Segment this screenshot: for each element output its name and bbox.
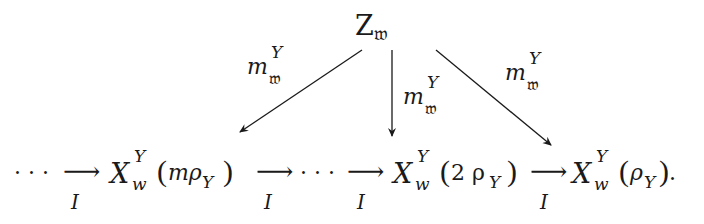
paren-open: ( xyxy=(157,154,167,188)
label-vertical-arrow: m Y 𝔴 xyxy=(403,84,424,109)
mid-dots: · · · xyxy=(300,160,335,185)
trailing-period: . xyxy=(669,160,676,185)
arrow-4: ⟶ xyxy=(530,156,567,186)
leading-dots: · · · xyxy=(14,160,49,185)
label-main: m xyxy=(505,60,526,85)
node-arg: 2 ρ xyxy=(451,160,485,185)
paren-close: ) xyxy=(659,154,669,188)
label-sup: Y xyxy=(427,72,438,92)
node-sup: Y xyxy=(417,146,428,166)
top-node-main: Z xyxy=(355,10,374,41)
paren-close: ) xyxy=(507,154,517,188)
node-x-2-rho: X Y w ( 2 ρ Y ) xyxy=(393,158,412,189)
node-arg: ρ xyxy=(630,160,643,185)
node-sub: w xyxy=(594,174,609,194)
paren-close: ) xyxy=(223,154,233,188)
label-sup: Y xyxy=(271,42,282,62)
node-sup: Y xyxy=(596,146,607,166)
arrow-2-label: I xyxy=(264,190,272,214)
top-node: Z𝔴 xyxy=(355,10,388,41)
node-main: X xyxy=(393,158,412,189)
node-sub: w xyxy=(415,174,430,194)
node-main: X xyxy=(572,158,591,189)
label-main: m xyxy=(403,84,424,109)
arrow-3: ⟶ xyxy=(347,156,384,186)
node-main: X xyxy=(110,158,129,189)
node-arg-sub: Y xyxy=(644,172,655,192)
top-node-subscript: 𝔴 xyxy=(374,21,388,45)
node-sup: Y xyxy=(134,146,145,166)
paren-open: ( xyxy=(440,154,450,188)
label-sub: 𝔴 xyxy=(269,68,281,88)
node-x-m-rho: X Y w ( mρ Y ) xyxy=(110,158,129,189)
label-sub: 𝔴 xyxy=(527,74,539,94)
arrow-1-label: I xyxy=(71,190,79,214)
node-x-rho: X Y w ( ρ Y ) . xyxy=(572,158,591,189)
label-right-arrow: m Y 𝔴 xyxy=(505,60,526,85)
node-arg-sub: Y xyxy=(202,172,213,192)
node-sub: w xyxy=(132,174,147,194)
arrow-4-label: I xyxy=(540,190,548,214)
arrow-3-label: I xyxy=(357,190,365,214)
label-sup: Y xyxy=(529,48,540,68)
label-left-arrow: m Y 𝔴 xyxy=(247,54,268,79)
node-arg-sub: Y xyxy=(489,172,500,192)
node-arg: mρ xyxy=(168,160,202,185)
label-main: m xyxy=(247,54,268,79)
arrow-1: ⟶ xyxy=(63,156,100,186)
arrow-2: ⟶ xyxy=(256,156,293,186)
paren-open: ( xyxy=(619,154,629,188)
label-sub: 𝔴 xyxy=(425,98,437,118)
